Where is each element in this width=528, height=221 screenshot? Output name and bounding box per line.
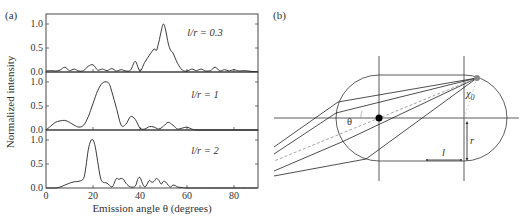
intensity-curve-l-r-0.3: [46, 24, 258, 72]
x-ticks: 0 20 40 60 80: [44, 190, 240, 201]
dashed-center-ray: [274, 78, 477, 161]
annotation-l-r-2: l/r = 2: [191, 145, 219, 156]
panel-a-label: (a): [5, 9, 18, 22]
intensity-curve-l-r-1: [46, 82, 258, 130]
emitter-point: [474, 75, 480, 81]
svg-text:0: 0: [44, 190, 49, 201]
svg-text:1.0: 1.0: [31, 134, 44, 145]
l-label: l: [442, 147, 445, 158]
svg-text:0.0: 0.0: [31, 182, 44, 193]
theta-arc: [361, 111, 362, 118]
svg-text:1.0: 1.0: [31, 18, 44, 29]
y-axis-label: Normalized intensity: [4, 55, 16, 148]
svg-text:60: 60: [182, 190, 192, 201]
svg-text:1.0: 1.0: [31, 76, 44, 87]
panel-a: (a) Normalized intensity Emission angle …: [4, 9, 258, 215]
panel-b: (b) θ χ0 r: [273, 9, 519, 181]
panel-b-label: (b): [273, 9, 286, 22]
theta-label: θ: [347, 116, 352, 127]
r-label: r: [470, 135, 475, 146]
y-ticks: 1.0 0.5 0.0 1.0 0.5 0.0 1.0 0.5 0.0: [31, 18, 44, 193]
svg-text:40: 40: [135, 190, 145, 201]
tick-marks: [46, 24, 258, 188]
intensity-curve-l-r-2: [46, 139, 258, 188]
subplot-frames: [46, 14, 258, 188]
figure: (a) Normalized intensity Emission angle …: [0, 0, 528, 221]
svg-text:0.5: 0.5: [31, 158, 44, 169]
svg-text:0.5: 0.5: [31, 100, 44, 111]
svg-text:80: 80: [229, 190, 239, 201]
svg-text:20: 20: [88, 190, 98, 201]
svg-text:0.5: 0.5: [31, 42, 44, 53]
center-dot: [376, 115, 383, 122]
x-axis-label: Emission angle θ (degrees): [92, 202, 212, 215]
annotation-l-r-0.3: l/r = 0.3: [187, 27, 222, 38]
annotation-l-r-1: l/r = 1: [191, 89, 219, 100]
